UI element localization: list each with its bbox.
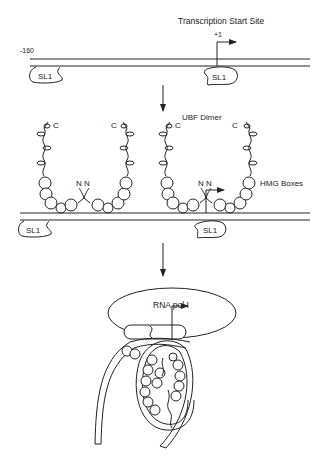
panel-promoter: Transcription Start Site +1 -160 SL1 SL1 [20, 16, 310, 85]
n-termini-label: N N [76, 179, 90, 188]
panel-ubf-binding: UBF Dimer HMG Boxes C C N N C C [18, 113, 310, 238]
ubf-dimer-label: UBF Dimer [182, 113, 222, 122]
n-termini-left [78, 188, 90, 203]
c-terminus-label: C [111, 121, 117, 130]
position-minus-160-label: -160 [20, 47, 34, 54]
ubf-sl1-promoter-diagram: Transcription Start Site +1 -160 SL1 SL1… [0, 0, 324, 465]
sl1-left-label: SL1 [26, 226, 41, 235]
sl1-right-label: SL1 [203, 226, 218, 235]
hmg-box-beads-wrapped [122, 346, 185, 415]
ubf-tails-wrapped [162, 358, 172, 428]
sl1-left-label: SL1 [38, 72, 53, 81]
sl1-complex-shape [124, 325, 186, 339]
c-terminus-label: C [53, 121, 59, 130]
c-terminus-label: C [232, 121, 238, 130]
plus-one-label: +1 [214, 31, 222, 38]
hmg-boxes-label: HMG Boxes [260, 179, 303, 188]
n-termini-label: N N [198, 179, 212, 188]
c-terminus-label: C [175, 121, 181, 130]
tss-arrow-icon [217, 42, 236, 66]
rna-pol-i-label: RNA pol I [153, 300, 189, 310]
sl1-right-label: SL1 [212, 73, 227, 82]
panel-pol-recruitment: RNA pol I [95, 288, 236, 448]
transcription-start-site-label: Transcription Start Site [178, 16, 264, 26]
